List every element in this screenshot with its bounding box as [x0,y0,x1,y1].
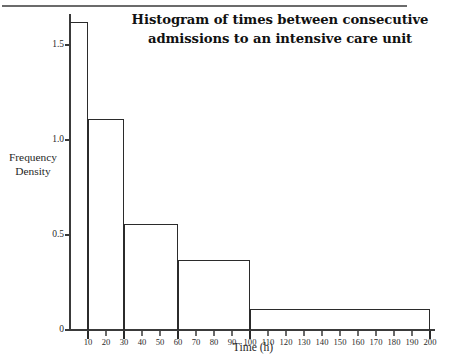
y-axis-title: Frequency Density [2,150,64,178]
y-tick-label: 0 [30,324,64,334]
x-tick-mark [141,331,142,336]
x-tick-mark [159,331,160,336]
histogram-bar [250,309,430,330]
x-axis-title: Time (h) [70,341,436,354]
histogram-figure: Histogram of times between consecutive a… [0,0,456,358]
x-tick-mark [231,331,232,336]
plot-area: 00.51.01.5 10203040506070809010011012013… [0,0,456,358]
y-tick-label: 1.5 [30,39,64,49]
y-tick-mark [65,139,70,140]
x-tick-mark [285,331,286,336]
y-tick-label: 1.0 [30,134,64,144]
y-tick-mark [65,44,70,45]
x-tick-mark [375,331,376,336]
histogram-bar [178,260,250,330]
y-axis-title-line-2: Density [2,164,64,178]
x-tick-mark [321,331,322,336]
y-tick-mark [65,329,70,330]
x-tick-mark [267,331,268,336]
x-tick-mark [339,331,340,336]
x-tick-mark [393,331,394,336]
y-tick-mark [65,234,70,235]
histogram-bar [124,224,178,330]
x-tick-mark [213,331,214,336]
x-tick-mark [105,331,106,336]
x-tick-mark [195,331,196,336]
y-tick-label: 0.5 [30,229,64,239]
y-axis-title-line-1: Frequency [2,150,64,164]
x-tick-mark [411,331,412,336]
histogram-bar [88,119,124,330]
x-tick-mark [357,331,358,336]
x-tick-mark [303,331,304,336]
histogram-bar [70,22,88,330]
